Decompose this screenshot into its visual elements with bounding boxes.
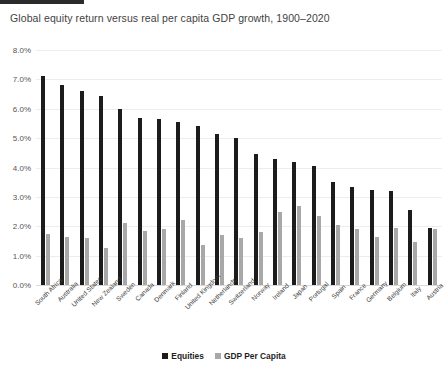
bar-gdp-per-capita: [433, 229, 437, 285]
x-axis-label-slot: Switzerland: [229, 287, 248, 349]
bar-equities: [118, 109, 122, 285]
legend-label: GDP Per Capita: [224, 351, 286, 361]
y-axis-tick-label: 7.0%: [13, 75, 31, 84]
bar-group: [384, 50, 403, 285]
x-axis-label-slot: Finland: [171, 287, 190, 349]
bar-equities: [273, 159, 277, 285]
x-axis-label-slot: Belgium: [384, 287, 403, 349]
bar-gdp-per-capita: [355, 229, 359, 285]
bar-group: [171, 50, 190, 285]
bar-equities: [389, 191, 393, 285]
x-axis-label-slot: Australia: [55, 287, 74, 349]
bar-group: [55, 50, 74, 285]
bar-equities: [80, 91, 84, 285]
x-axis-label-slot: Austria: [423, 287, 442, 349]
bar-gdp-per-capita: [336, 225, 340, 285]
legend-label: Equities: [171, 351, 204, 361]
bar-gdp-per-capita: [317, 216, 321, 285]
bar-equities: [370, 190, 374, 285]
chart-legend: EquitiesGDP Per Capita: [0, 351, 448, 361]
bar-group: [133, 50, 152, 285]
y-axis-tick-label: 2.0%: [13, 222, 31, 231]
bar-group: [249, 50, 268, 285]
bar-group: [75, 50, 94, 285]
x-axis-labels: South AfricaAustraliaUnited StatesNew Ze…: [36, 287, 442, 349]
x-axis-label-slot: Netherlands: [210, 287, 229, 349]
bar-group: [268, 50, 287, 285]
bar-equities: [41, 76, 45, 285]
bar-equities: [234, 138, 238, 285]
bar-group: [36, 50, 55, 285]
bar-group: [210, 50, 229, 285]
legend-swatch-gdp: [215, 353, 221, 359]
x-axis-label-slot: New Zealand: [94, 287, 113, 349]
bar-equities: [331, 182, 335, 285]
bar-group: [229, 50, 248, 285]
y-axis-tick-label: 1.0%: [13, 251, 31, 260]
y-axis-tick-label: 6.0%: [13, 104, 31, 113]
bar-gdp-per-capita: [201, 245, 205, 285]
bar-equities: [138, 118, 142, 285]
x-axis-label-slot: Denmark: [152, 287, 171, 349]
bar-gdp-per-capita: [278, 212, 282, 285]
bar-gdp-per-capita: [394, 228, 398, 285]
title-accent-bar: [0, 0, 84, 4]
bar-gdp-per-capita: [123, 223, 127, 285]
bar-gdp-per-capita: [104, 248, 108, 285]
bar-equities: [292, 162, 296, 285]
bar-equities: [60, 85, 64, 285]
bar-gdp-per-capita: [239, 238, 243, 285]
x-axis-label-slot: Japan: [287, 287, 306, 349]
x-axis-label-slot: Sweden: [113, 287, 132, 349]
legend-item: GDP Per Capita: [215, 351, 286, 361]
bar-group: [365, 50, 384, 285]
y-axis-tick-label: 5.0%: [13, 134, 31, 143]
bar-equities: [350, 187, 354, 285]
chart-plot-area: 8.0%7.0%6.0%5.0%4.0%3.0%2.0%1.0%0.0%: [36, 50, 442, 285]
bar-gdp-per-capita: [46, 234, 50, 285]
bar-gdp-per-capita: [162, 229, 166, 285]
bar-equities: [196, 126, 200, 285]
bar-equities: [254, 154, 258, 285]
x-axis-label-slot: Norway: [249, 287, 268, 349]
x-axis-label-slot: France: [345, 287, 364, 349]
bar-group: [326, 50, 345, 285]
x-axis-tick-label: Italy: [409, 285, 423, 299]
legend-swatch-equities: [162, 353, 168, 359]
bar-gdp-per-capita: [297, 206, 301, 285]
bar-group: [287, 50, 306, 285]
bar-group: [423, 50, 442, 285]
x-axis-label-slot: Ireland: [268, 287, 287, 349]
bar-group: [191, 50, 210, 285]
x-axis-label-slot: United States: [75, 287, 94, 349]
y-axis-tick-label: 8.0%: [13, 46, 31, 55]
bar-equities: [157, 119, 161, 285]
bar-equities: [99, 96, 103, 285]
bar-group: [345, 50, 364, 285]
bar-group: [94, 50, 113, 285]
chart-title: Global equity return versus real per cap…: [10, 12, 330, 24]
bar-group: [403, 50, 422, 285]
bar-gdp-per-capita: [259, 232, 263, 285]
bar-equities: [176, 122, 180, 285]
legend-item: Equities: [162, 351, 204, 361]
y-axis-tick-label: 3.0%: [13, 192, 31, 201]
x-axis-label-slot: South Africa: [36, 287, 55, 349]
y-axis-tick-label: 0.0%: [13, 281, 31, 290]
bar-gdp-per-capita: [181, 220, 185, 285]
bar-gdp-per-capita: [143, 231, 147, 285]
x-axis-label-slot: Portugal: [307, 287, 326, 349]
bar-group: [307, 50, 326, 285]
bar-gdp-per-capita: [413, 242, 417, 285]
bar-equities: [312, 166, 316, 285]
bar-gdp-per-capita: [375, 237, 379, 285]
bar-group: [113, 50, 132, 285]
x-axis-label-slot: Spain: [326, 287, 345, 349]
bar-equities: [408, 210, 412, 285]
bar-gdp-per-capita: [65, 237, 69, 285]
bar-equities: [215, 134, 219, 285]
x-axis-label-slot: Italy: [403, 287, 422, 349]
x-axis-label-slot: Canada: [133, 287, 152, 349]
y-axis-tick-label: 4.0%: [13, 163, 31, 172]
x-axis-label-slot: Germany: [365, 287, 384, 349]
